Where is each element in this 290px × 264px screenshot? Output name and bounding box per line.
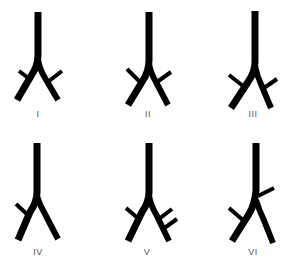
panel-4: IV — [16, 143, 58, 257]
panel-label-3: III — [248, 109, 257, 119]
panel-6: VI — [229, 143, 274, 257]
panel-5: V — [126, 143, 177, 257]
bronchial-variants-diagram: I II III IV V VI — [0, 0, 290, 264]
panel-1: I — [17, 12, 62, 119]
panel-label-6: VI — [248, 247, 258, 257]
panel-2: II — [127, 12, 171, 119]
panel-3: III — [229, 11, 277, 119]
panel-label-1: I — [36, 109, 39, 119]
panel-label-5: V — [144, 247, 151, 257]
panel-label-4: IV — [33, 247, 43, 257]
panel-label-2: II — [145, 109, 151, 119]
